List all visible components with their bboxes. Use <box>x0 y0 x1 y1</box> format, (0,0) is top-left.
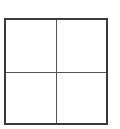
horizontal-divider <box>6 72 106 73</box>
grid-cell-top-left <box>6 20 56 72</box>
grid-cell-bottom-left <box>6 73 56 123</box>
grid-square <box>4 18 108 125</box>
grid-cell-bottom-right <box>57 73 106 123</box>
grid-cell-top-right <box>57 20 106 72</box>
